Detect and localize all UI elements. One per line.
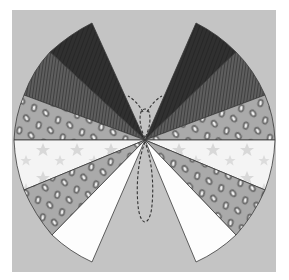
butterfly-illustration: [0, 0, 289, 280]
